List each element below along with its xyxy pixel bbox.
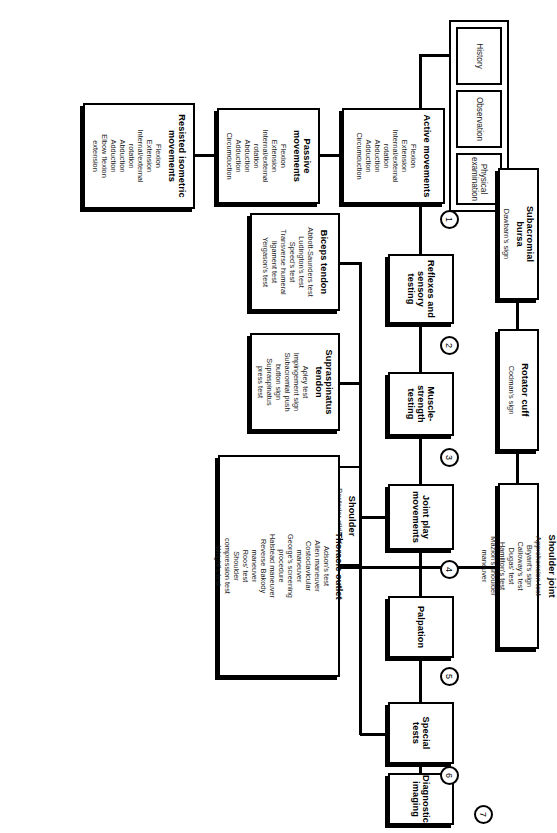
- box-reflexes-sensory-testing[interactable]: Reflexes and sensory testing: [388, 254, 454, 324]
- box-subacromial-bursa-items: Dawbarn's sign: [502, 209, 511, 259]
- box-resisted-isometric-movements-title: Resisted isometric movements: [166, 114, 187, 198]
- step-circle-2-label: 2: [445, 343, 455, 348]
- step-circle-5-label: 5: [445, 674, 455, 679]
- box-special-tests-title: Special tests: [411, 706, 432, 760]
- intake-item-history-label: History: [474, 43, 483, 68]
- box-supraspinatus-tendon[interactable]: Supraspinatus tendon Apley test Impingem…: [250, 333, 340, 431]
- box-resisted-isometric-movements-items: Flexion Extension Internal/external rota…: [91, 130, 163, 183]
- step-circle-4: 4: [440, 560, 459, 579]
- box-biceps-tendon[interactable]: Biceps tendon Abbott-Saunders test Ludin…: [250, 213, 340, 311]
- step-circle-4-label: 4: [445, 567, 455, 572]
- intake-item-physical-examination-label: Physical examination: [470, 157, 489, 201]
- connector-intake-down: [420, 54, 449, 57]
- connector-special-tests-bus: [360, 262, 363, 735]
- box-palpation-title: Palpation: [416, 606, 426, 648]
- intake-item-observation-label: Observation: [474, 97, 483, 141]
- step-circle-2: 2: [440, 336, 459, 355]
- box-biceps-tendon-items: Abbott-Saunders test Ludington's test Sp…: [261, 227, 315, 296]
- box-diagnostic-imaging-title: Diagnostic imaging: [411, 775, 432, 823]
- step-circle-7-label: 7: [479, 812, 489, 817]
- step-circle-7: 7: [474, 805, 493, 824]
- connector-active-to-passive: [320, 154, 342, 157]
- box-rotator-cuff[interactable]: Rotator cuff Codman's sign: [498, 329, 539, 451]
- box-active-movements-items: Flexion Extension Internal/external rota…: [355, 130, 418, 183]
- box-rotator-cuff-title: Rotator cuff: [519, 363, 529, 416]
- box-joint-play-movements[interactable]: Joint play movements: [388, 484, 454, 550]
- box-rotator-cuff-items: Codman's sign: [507, 366, 516, 415]
- connector-active-to-reflexes: [420, 204, 423, 254]
- connector-bus-to-biceps: [340, 262, 362, 265]
- box-resisted-isometric-movements[interactable]: Resisted isometric movements Flexion Ext…: [83, 103, 195, 209]
- box-active-movements[interactable]: Active movements Flexion Extension Inter…: [342, 108, 445, 204]
- box-joint-play-shoulder-title: Shoulder: [347, 496, 357, 537]
- box-thoracic-outlet[interactable]: Thoracic outlet Adson's test Allen maneu…: [218, 455, 340, 677]
- box-passive-movements-title: Passive movements: [291, 130, 312, 182]
- box-reflexes-sensory-testing-title: Reflexes and sensory testing: [406, 258, 437, 320]
- connector-special-tests-drop: [360, 733, 388, 736]
- intake-item-physical-examination[interactable]: Physical examination: [456, 153, 502, 205]
- box-passive-movements[interactable]: Passive movements Flexion Extension Inte…: [217, 108, 320, 204]
- box-shoulder-joint[interactable]: Shoulder joint Apprehension test Bryant'…: [498, 483, 539, 649]
- connector-bus-to-shoulder-joint: [362, 566, 498, 569]
- connector-intake-to-active: [420, 54, 423, 108]
- box-special-tests[interactable]: Special tests: [388, 702, 454, 764]
- connector-reflexes-to-muscle: [420, 324, 423, 372]
- box-supraspinatus-tendon-title: Supraspinatus tendon: [313, 349, 334, 414]
- intake-item-observation[interactable]: Observation: [456, 90, 502, 148]
- connector-rotatorcuff-to-subacromial: [517, 300, 520, 329]
- box-supraspinatus-tendon-items: Apley test Impingement sign Subacromial …: [256, 352, 310, 411]
- box-subacromial-bursa-title: Subacromial bursa: [514, 206, 535, 262]
- connector-bus-to-supraspinatus: [340, 382, 362, 385]
- step-circle-3-label: 3: [445, 455, 455, 460]
- step-circle-6: 6: [440, 766, 459, 785]
- step-circle-3: 3: [440, 448, 459, 467]
- box-subacromial-bursa[interactable]: Subacromial bursa Dawbarn's sign: [498, 168, 539, 300]
- box-joint-play-movements-title: Joint play movements: [411, 491, 432, 543]
- connector-jointplay-to-palpation: [420, 550, 423, 596]
- connector-palpation-to-special: [420, 658, 423, 702]
- connector-shoulderjoint-to-rotatorcuff: [517, 451, 520, 483]
- step-circle-5: 5: [440, 667, 459, 686]
- box-shoulder-joint-title: Shoulder joint: [546, 534, 556, 597]
- connector-passive-to-resisted: [195, 154, 217, 157]
- box-active-movements-title: Active movements: [421, 115, 431, 198]
- step-circle-1: 1: [440, 210, 459, 229]
- intake-item-history[interactable]: History: [456, 27, 502, 85]
- connector-muscle-to-jointplay: [420, 436, 423, 484]
- step-circle-1-label: 1: [445, 217, 455, 222]
- box-shoulder-joint-items: Apprehension test Bryant's sign Calloway…: [480, 536, 543, 596]
- box-palpation[interactable]: Palpation: [388, 596, 454, 658]
- box-thoracic-outlet-title: Thoracic outlet: [334, 532, 344, 599]
- box-muscle-strength-testing[interactable]: Muscle- strength testing: [388, 372, 454, 436]
- box-passive-movements-items: Flexion Extension Internal/external rota…: [225, 130, 288, 183]
- box-thoracic-outlet-items: Adson's test Allen maneuver Costoclavicu…: [214, 534, 331, 598]
- step-circle-6-label: 6: [445, 773, 455, 778]
- box-biceps-tendon-title: Biceps tendon: [318, 230, 328, 295]
- box-muscle-strength-testing-title: Muscle- strength testing: [406, 385, 437, 423]
- connector-jointplay-to-shoulder: [362, 516, 388, 519]
